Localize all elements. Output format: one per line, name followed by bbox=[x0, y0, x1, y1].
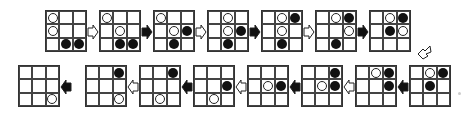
grid-cell bbox=[369, 93, 382, 106]
grid-state-7 bbox=[369, 10, 411, 52]
grid-cell bbox=[275, 11, 288, 24]
grid-cell bbox=[153, 66, 166, 79]
grid-cell bbox=[275, 93, 288, 106]
grid-cell bbox=[329, 38, 342, 51]
hollow-arrow-icon bbox=[127, 79, 139, 93]
grid-cell bbox=[99, 79, 112, 92]
filled-arrow-icon bbox=[60, 79, 72, 93]
black-stone-icon bbox=[236, 26, 246, 36]
grid-cell bbox=[248, 79, 261, 92]
grid-cell bbox=[73, 38, 86, 51]
grid-cell bbox=[32, 66, 45, 79]
filled-arrow-icon bbox=[289, 79, 301, 93]
filled-arrow-icon bbox=[357, 24, 369, 38]
white-stone-icon bbox=[114, 94, 124, 104]
grid-state-15 bbox=[18, 65, 60, 107]
grid-state-12 bbox=[193, 65, 235, 107]
grid-cell bbox=[383, 93, 396, 106]
grid-cell bbox=[194, 93, 207, 106]
grid-cell bbox=[262, 11, 275, 24]
white-stone-icon bbox=[102, 13, 112, 23]
white-stone-icon bbox=[331, 13, 341, 23]
black-stone-icon bbox=[290, 13, 300, 23]
grid-cell bbox=[140, 66, 153, 79]
grid-cell bbox=[423, 66, 436, 79]
grid-cell bbox=[221, 38, 234, 51]
grid-cell bbox=[153, 79, 166, 92]
grid-cell bbox=[154, 38, 167, 51]
grid-cell bbox=[113, 11, 126, 24]
grid-cell bbox=[275, 24, 288, 37]
white-stone-icon bbox=[263, 81, 273, 91]
grid-cell bbox=[302, 79, 315, 92]
black-stone-icon bbox=[331, 39, 341, 49]
black-stone-icon bbox=[168, 68, 178, 78]
grid-cell bbox=[397, 11, 410, 24]
grid-cell bbox=[100, 38, 113, 51]
filled-arrow-icon bbox=[181, 79, 193, 93]
hollow-arrow-icon bbox=[303, 24, 315, 38]
black-stone-icon bbox=[128, 39, 138, 49]
grid-cell bbox=[59, 24, 72, 37]
white-stone-icon bbox=[48, 26, 58, 36]
black-stone-icon bbox=[223, 39, 233, 49]
white-stone-icon bbox=[223, 13, 233, 23]
grid-cell bbox=[46, 93, 59, 106]
grid-cell bbox=[248, 93, 261, 106]
black-stone-icon bbox=[114, 68, 124, 78]
grid-cell bbox=[167, 38, 180, 51]
white-stone-icon bbox=[398, 26, 408, 36]
black-stone-icon bbox=[384, 81, 394, 91]
grid-cell bbox=[221, 11, 234, 24]
grid-cell bbox=[100, 24, 113, 37]
hollow-arrow-icon bbox=[87, 24, 99, 38]
filled-arrow-icon bbox=[141, 24, 153, 38]
grid-cell bbox=[194, 66, 207, 79]
grid-state-5 bbox=[261, 10, 303, 52]
grid-cell bbox=[86, 93, 99, 106]
black-stone-icon bbox=[222, 81, 232, 91]
grid-cell bbox=[99, 93, 112, 106]
grid-cell bbox=[437, 66, 450, 79]
hollow-arrow-icon bbox=[235, 79, 247, 93]
grid-cell bbox=[410, 79, 423, 92]
black-stone-icon bbox=[74, 39, 84, 49]
white-stone-icon bbox=[344, 26, 354, 36]
grid-cell bbox=[208, 11, 221, 24]
black-stone-icon bbox=[398, 13, 408, 23]
grid-cell bbox=[99, 66, 112, 79]
grid-cell bbox=[113, 24, 126, 37]
grid-cell bbox=[32, 79, 45, 92]
black-stone-icon bbox=[169, 39, 179, 49]
grid-cell bbox=[369, 66, 382, 79]
grid-state-4 bbox=[207, 10, 249, 52]
grid-cell bbox=[315, 66, 328, 79]
grid-cell bbox=[302, 93, 315, 106]
grid-cell bbox=[46, 79, 59, 92]
grid-cell bbox=[329, 24, 342, 37]
grid-cell bbox=[383, 38, 396, 51]
grid-cell bbox=[46, 66, 59, 79]
speck-mark bbox=[458, 92, 461, 95]
grid-cell bbox=[329, 93, 342, 106]
grid-cell bbox=[369, 79, 382, 92]
grid-state-2 bbox=[99, 10, 141, 52]
black-stone-icon bbox=[384, 68, 394, 78]
grid-cell bbox=[316, 11, 329, 24]
grid-cell bbox=[248, 66, 261, 79]
grid-cell bbox=[316, 24, 329, 37]
grid-cell bbox=[59, 38, 72, 51]
grid-cell bbox=[127, 24, 140, 37]
grid-cell bbox=[46, 38, 59, 51]
grid-state-6 bbox=[315, 10, 357, 52]
grid-cell bbox=[167, 79, 180, 92]
grid-cell bbox=[181, 11, 194, 24]
grid-cell bbox=[356, 66, 369, 79]
grid-cell bbox=[316, 38, 329, 51]
grid-cell bbox=[207, 79, 220, 92]
grid-cell bbox=[113, 93, 126, 106]
grid-state-3 bbox=[153, 10, 195, 52]
black-stone-icon bbox=[330, 81, 340, 91]
grid-cell bbox=[370, 38, 383, 51]
grid-cell bbox=[19, 93, 32, 106]
